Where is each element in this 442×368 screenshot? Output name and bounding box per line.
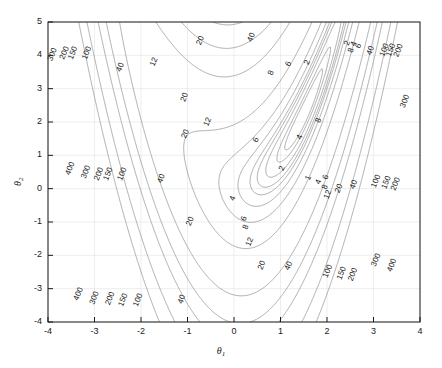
y-axis-title-symbol: θ <box>12 181 23 186</box>
y-tick-label: 2 <box>37 116 42 126</box>
y-tick-label: -3 <box>34 283 42 293</box>
y-axis-title-subscript: 2 <box>17 178 25 182</box>
contour-plot-canvas: 3002001501004020124020862246840150100200… <box>0 0 442 368</box>
x-tick-label: 3 <box>371 326 376 336</box>
x-axis-title-subscript: 1 <box>222 350 226 358</box>
y-tick-label: -1 <box>34 216 42 226</box>
x-tick-label: -2 <box>137 326 145 336</box>
y-tick-label: 4 <box>37 49 42 59</box>
x-axis-title: θ1 <box>217 345 225 358</box>
x-tick-label: 1 <box>278 326 283 336</box>
contour-plot-figure: 3002001501004020124020862246840150100200… <box>0 0 442 368</box>
y-tick-label: 0 <box>37 183 42 193</box>
x-tick-label: -3 <box>90 326 98 336</box>
y-tick-label: -2 <box>34 249 42 259</box>
y-tick-label: 5 <box>37 16 42 26</box>
x-tick-label: 4 <box>417 326 422 336</box>
y-axis-title: θ2 <box>12 178 25 186</box>
y-tick-label: 3 <box>37 83 42 93</box>
x-tick-label: 0 <box>231 326 236 336</box>
x-tick-label: -4 <box>44 326 52 336</box>
x-tick-label: -1 <box>183 326 191 336</box>
x-tick-label: 2 <box>324 326 329 336</box>
y-tick-label: 1 <box>37 149 42 159</box>
y-tick-label: -4 <box>34 316 42 326</box>
